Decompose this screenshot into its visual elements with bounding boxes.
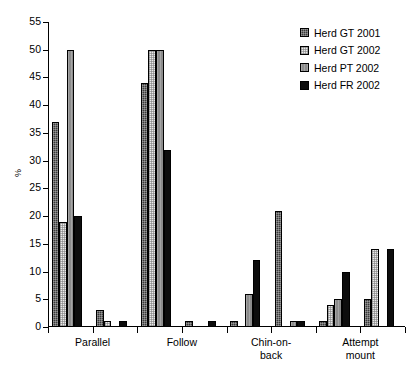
bar-chart: % 0510152025303540455055 ParallelFollowC… (0, 0, 418, 379)
x-axis-label: Follow (137, 336, 227, 349)
legend-swatch-icon (300, 46, 309, 55)
bar (96, 310, 104, 327)
x-axis-tick-mark (48, 327, 49, 333)
x-axis-label: Attempt mount (315, 336, 405, 362)
chart-legend: Herd GT 2001Herd GT 2002Herd PT 2002Herd… (300, 24, 412, 94)
x-axis-tick-mark (316, 327, 317, 333)
bar (342, 272, 350, 327)
bar (185, 321, 193, 327)
bar (245, 294, 253, 327)
x-axis-label: Chin-on- back (226, 336, 316, 362)
legend-item[interactable]: Herd GT 2001 (300, 24, 412, 42)
legend-swatch-icon (300, 28, 309, 37)
x-axis-tick-mark (271, 327, 272, 333)
x-axis-tick-mark (93, 327, 94, 333)
y-axis-tick-label: 10 (29, 265, 41, 277)
y-axis-tick-label: 25 (29, 181, 41, 193)
y-axis-tick-label: 20 (29, 209, 41, 221)
bar (104, 321, 112, 327)
legend-swatch-icon (300, 81, 309, 90)
y-axis-tick-label: 45 (29, 70, 41, 82)
legend-label: Herd GT 2001 (314, 27, 380, 39)
bar (67, 50, 75, 327)
legend-item[interactable]: Herd FR 2002 (300, 77, 412, 95)
legend-swatch-icon (300, 63, 309, 72)
x-axis-tick-mark (182, 327, 183, 333)
y-axis-tick-label: 30 (29, 154, 41, 166)
y-axis-tick-label: 55 (29, 15, 41, 27)
x-axis-label: Parallel (48, 336, 138, 349)
legend-item[interactable]: Herd PT 2002 (300, 59, 412, 77)
bar (230, 321, 238, 327)
legend-item[interactable]: Herd GT 2002 (300, 42, 412, 60)
bar (148, 50, 156, 327)
bar (319, 321, 327, 327)
bar (327, 305, 335, 327)
x-axis-tick-mark (137, 327, 138, 333)
y-axis-tick-label: 50 (29, 43, 41, 55)
bar (371, 249, 379, 327)
bar (275, 211, 283, 327)
x-axis-tick-mark (227, 327, 228, 333)
y-axis-tick-label: 0 (35, 320, 41, 332)
legend-label: Herd PT 2002 (314, 62, 379, 74)
y-axis-tick-label: 5 (35, 292, 41, 304)
legend-label: Herd FR 2002 (314, 79, 380, 91)
bar (387, 249, 395, 327)
bar (141, 83, 149, 327)
bar (74, 216, 82, 327)
legend-label: Herd GT 2002 (314, 44, 380, 56)
y-axis-tick-label: 35 (29, 126, 41, 138)
bar (290, 321, 298, 327)
bar (164, 150, 172, 327)
bar (253, 260, 261, 327)
bar (208, 321, 216, 327)
y-axis-tick-label: 40 (29, 98, 41, 110)
bar (297, 321, 305, 327)
y-axis-title: % (13, 153, 23, 193)
bar (59, 222, 67, 327)
bar (52, 122, 60, 327)
x-axis-tick-mark (405, 327, 406, 333)
bar (334, 299, 342, 327)
bar (364, 299, 372, 327)
bar (156, 50, 164, 327)
bar (119, 321, 127, 327)
y-axis-tick-label: 15 (29, 237, 41, 249)
x-axis-tick-mark (360, 327, 361, 333)
